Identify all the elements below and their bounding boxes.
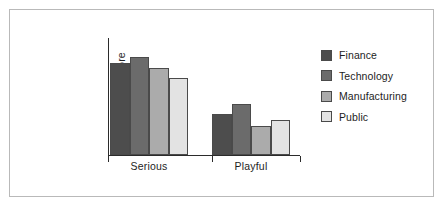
legend-swatch-public — [321, 111, 332, 122]
legend-label-finance: Finance — [339, 49, 377, 61]
bar-public-serious — [169, 78, 189, 155]
x-tick-label-serious: Serious — [104, 160, 194, 172]
legend-item-finance: Finance — [321, 47, 426, 63]
bar-technology-playful — [232, 104, 252, 155]
legend-item-technology: Technology — [321, 68, 426, 84]
legend-item-manufacturing: Manufacturing — [321, 88, 426, 104]
bar-finance-playful — [212, 114, 232, 155]
legend-swatch-finance — [321, 50, 332, 61]
legend-item-public: Public — [321, 109, 426, 125]
plot-area: Mean AMSP score — [108, 38, 298, 155]
legend-label-public: Public — [339, 111, 368, 123]
legend-label-manufacturing: Manufacturing — [339, 90, 407, 102]
chart-figure: Mean AMSP score SeriousPlayful FinanceTe… — [0, 0, 444, 208]
legend-swatch-technology — [321, 70, 332, 81]
x-axis-line — [108, 155, 300, 156]
bar-manufacturing-serious — [149, 68, 169, 155]
bar-manufacturing-playful — [251, 126, 271, 155]
legend-swatch-manufacturing — [321, 91, 332, 102]
legend-label-technology: Technology — [339, 70, 393, 82]
chart-legend: FinanceTechnologyManufacturingPublic — [321, 47, 426, 129]
bar-finance-serious — [110, 63, 130, 155]
bar-technology-serious — [130, 57, 150, 155]
x-tick-label-playful: Playful — [206, 160, 296, 172]
bar-public-playful — [271, 120, 291, 155]
x-axis-tick — [300, 156, 301, 162]
